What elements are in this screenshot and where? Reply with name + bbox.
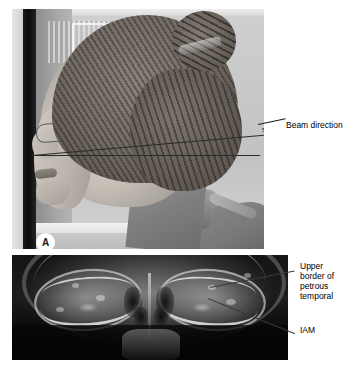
trabecular-speckle xyxy=(96,295,105,301)
trabecular-speckle xyxy=(226,299,236,305)
trabecular-speckle xyxy=(72,283,79,288)
callout-beam-direction: Beam direction xyxy=(286,120,343,130)
panel-b-radiograph: B xyxy=(12,255,288,360)
callout-upper-border-petrous-temporal: Upper border of petrous temporal xyxy=(300,261,334,301)
panel-a-photograph: 5° A xyxy=(12,9,264,249)
hair-occipital xyxy=(130,69,242,191)
maxillary-sinus-left xyxy=(134,307,148,327)
internal-auditory-meatus-right xyxy=(192,303,212,312)
trabecular-speckle xyxy=(56,307,64,312)
panel-label-a: A xyxy=(36,233,55,249)
trabecular-speckle xyxy=(244,273,251,278)
maxillary-sinus-right xyxy=(154,307,168,327)
patient-head xyxy=(12,9,264,249)
beam-angle-label: 5° xyxy=(262,127,264,133)
mandible-shadow xyxy=(122,329,180,360)
radiography-figure: 5° A Beam direction B Upper bor xyxy=(0,0,360,369)
callout-iam: IAM xyxy=(300,325,315,335)
baseline-reference-line xyxy=(32,155,260,156)
internal-auditory-meatus-left xyxy=(78,303,98,312)
